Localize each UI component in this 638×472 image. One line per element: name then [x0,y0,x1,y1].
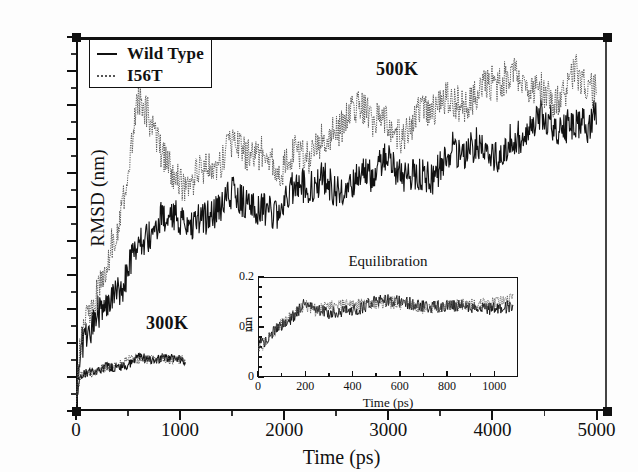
legend: Wild Type I56T [89,39,212,88]
legend-label-wild-type: Wild Type [127,44,204,64]
inset-x-tick-label: 1000 [469,379,519,394]
y-tick [67,342,76,344]
x-tick-minor [335,411,337,416]
inset-data-traces [258,277,518,377]
inset-trace-i56t [258,294,513,352]
y-tick [67,274,76,276]
y-tick [67,172,76,174]
inset-x-tick-label: 600 [375,379,425,394]
annotation-500k: 500K [376,59,418,80]
x-tick-minor [439,411,441,416]
x-tick-minor [544,411,546,416]
x-tick-label: 5000 [557,420,637,439]
inset-y-tick-label: 0.2 [214,270,254,282]
y-tick [67,70,76,72]
solid-line-key-icon [95,48,121,60]
y-tick [67,376,76,378]
x-tick-label: 2000 [244,420,324,439]
legend-item-wild-type: Wild Type [95,43,206,65]
y-axis-title: RMSD (nm) [87,118,109,278]
y-tick [67,104,76,106]
x-axis-title: Time (ps) [76,446,607,469]
inset-x-tick-label: 800 [422,379,472,394]
inset-x-tick-label: 0 [233,379,283,394]
annotation-300k: 300K [146,313,188,334]
inset-x-tick-label: 200 [280,379,330,394]
inset-y-axis-title: nm [241,305,256,345]
legend-label-i56t: I56T [127,66,163,86]
inset-title: Equilibration [258,253,518,270]
main-plot-area: 0.00.10.20.30.40.50.60.70.80.91.01.1 010… [76,37,607,411]
y-tick [67,138,76,140]
y-tick [67,240,76,242]
inset-plot: Equilibration 00.10.2 02004006008001000 … [258,277,518,377]
x-tick-label: 0 [36,420,116,439]
x-tick-label: 4000 [452,420,532,439]
y-tick [67,308,76,310]
x-tick-minor [127,411,129,416]
y-tick [67,36,76,38]
x-tick-label: 3000 [348,420,428,439]
x-tick-minor [231,411,233,416]
y-tick [67,206,76,208]
legend-item-i56t: I56T [95,65,206,87]
dotted-line-key-icon [95,70,121,82]
inset-x-axis-title: Time (ps) [258,395,518,411]
rmsd-figure: 0.00.10.20.30.40.50.60.70.80.91.01.1 010… [0,0,638,472]
x-tick-label: 1000 [140,420,220,439]
inset-x-tick-label: 400 [328,379,378,394]
